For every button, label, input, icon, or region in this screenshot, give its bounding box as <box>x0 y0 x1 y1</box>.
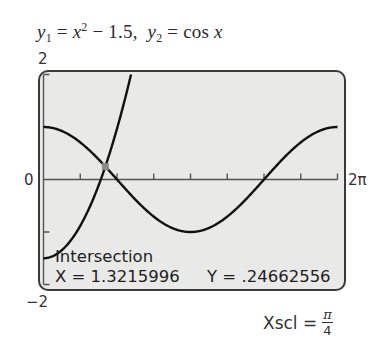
y1-symbol: y <box>37 21 46 42</box>
parabola-curve <box>44 75 132 259</box>
intersection-marker <box>102 163 109 170</box>
readout-x-value: X = 1.3215996 <box>55 269 180 286</box>
xscl-label: Xscl = π 4 <box>263 308 333 337</box>
y2-symbol: y <box>148 21 157 42</box>
xscl-text: Xscl = <box>263 313 317 333</box>
ymax-label: 2 <box>38 52 48 67</box>
y2-equals-cos: = cos <box>162 21 214 42</box>
readout-heading: Intersection <box>55 249 153 266</box>
xmin-label: 0 <box>24 173 34 188</box>
readout-y-value: Y = .24662556 <box>207 269 331 286</box>
calculator-screen: Intersection X = 1.3215996 Y = .24662556 <box>38 70 346 291</box>
xscl-numerator: π <box>322 308 333 323</box>
y1-equals: = <box>52 21 73 42</box>
equation-title: y1 = x2 − 1.5, y2 = cos x <box>37 21 223 43</box>
xscl-denominator: 4 <box>323 323 331 337</box>
ymin-label: −2 <box>26 295 48 310</box>
xscl-fraction: π 4 <box>322 308 333 337</box>
xmax-label: 2π <box>348 173 367 188</box>
y2-x: x <box>214 21 223 42</box>
y1-constant: − 1.5, <box>88 21 138 42</box>
